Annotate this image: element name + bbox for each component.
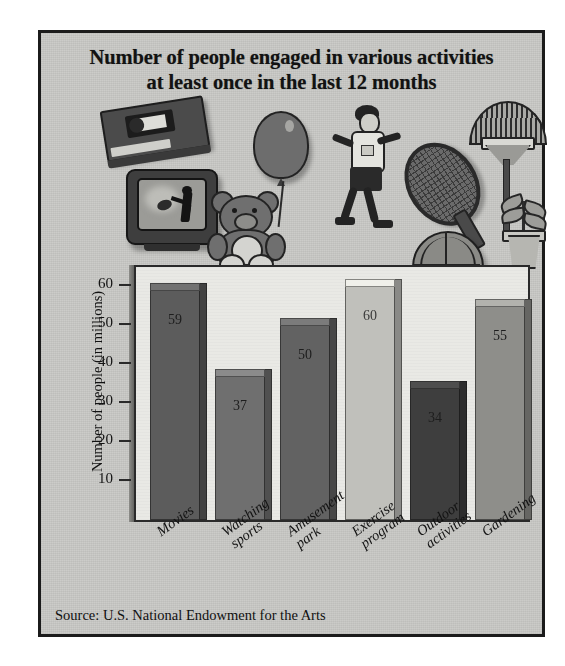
y-tick-label: 10	[73, 470, 113, 487]
y-tick	[119, 284, 131, 286]
plot-area: 593750603455	[134, 265, 530, 522]
bar-value-label: 60	[345, 308, 395, 324]
y-axis-label: Number of people (in millions)	[89, 282, 106, 482]
bar-top-face	[475, 299, 525, 307]
page-title: Number of people engaged in various acti…	[41, 45, 542, 95]
vhs-tape-icon	[100, 95, 211, 163]
bar-side-face	[199, 283, 207, 520]
source-note: Source: U.S. National Endowment for the …	[55, 607, 326, 624]
bar-value-label: 50	[280, 347, 330, 363]
bar-top-face	[215, 369, 265, 377]
title-line-2: at least once in the last 12 months	[41, 70, 542, 95]
bar-chart: Number of people (in millions) 102030405…	[59, 261, 530, 563]
bar-exercise-program: 60	[345, 286, 395, 520]
title-line-1: Number of people engaged in various acti…	[90, 46, 494, 68]
bar-value-label: 34	[410, 410, 460, 426]
bar-side-face	[459, 381, 467, 520]
bar-movies: 59	[150, 290, 200, 520]
y-tick	[119, 479, 131, 481]
bar-top-face	[150, 283, 200, 291]
y-tick-label: 20	[73, 431, 113, 448]
bar-value-label: 37	[215, 398, 265, 414]
y-tick	[119, 440, 131, 442]
bar-value-label: 59	[150, 312, 200, 328]
y-tick-label: 30	[73, 392, 113, 409]
y-tick-label: 60	[73, 275, 113, 292]
y-tick-label: 40	[73, 353, 113, 370]
bar-gardening: 55	[475, 306, 525, 520]
illustration-band	[41, 95, 542, 260]
y-tick-label: 50	[73, 314, 113, 331]
bar-top-face	[410, 381, 460, 389]
y-tick	[119, 323, 131, 325]
television-icon	[126, 169, 218, 245]
bar-top-face	[345, 279, 395, 287]
chart-figure: Number of people engaged in various acti…	[38, 30, 545, 637]
bar-value-label: 55	[475, 328, 525, 344]
bar-top-face	[280, 318, 330, 326]
bar-side-face	[394, 279, 402, 520]
potted-plant-icon	[493, 199, 551, 269]
y-tick	[119, 362, 131, 364]
bar-amusement-park: 50	[280, 325, 330, 520]
bar-side-face	[524, 299, 532, 520]
balloon-icon	[253, 111, 309, 179]
y-tick	[119, 401, 131, 403]
